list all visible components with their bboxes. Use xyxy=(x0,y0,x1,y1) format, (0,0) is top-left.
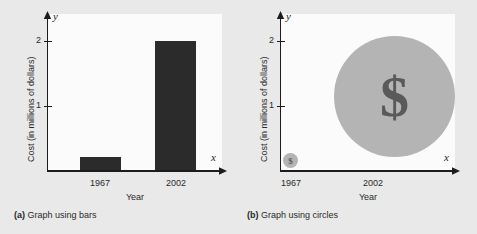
panel-graph-using-bars: Cost (in millions of dollars) y x 2 1 19… xyxy=(0,0,238,234)
x-axis-title-a: Year xyxy=(95,192,175,202)
y-axis-variable-a: y xyxy=(53,10,58,22)
y-tick-2-b xyxy=(277,41,285,42)
x-category-label-1967-b: 1967 xyxy=(261,178,321,188)
y-tick-label-1-b: 1 xyxy=(260,101,274,110)
circle-marker-1967: $ xyxy=(283,153,298,168)
y-tick-label-1-a: 1 xyxy=(27,101,41,110)
x-category-label-2002-a: 2002 xyxy=(146,178,206,188)
y-axis-arrowhead-a xyxy=(43,11,53,21)
figure-container: Cost (in millions of dollars) y x 2 1 19… xyxy=(0,0,477,234)
x-axis-arrowhead-b xyxy=(450,166,460,176)
bar-1967 xyxy=(80,157,121,170)
x-axis-variable-b: x xyxy=(444,151,449,163)
circle-marker-2002: $ xyxy=(334,36,455,157)
y-tick-1-b xyxy=(277,106,285,107)
x-category-label-1967-a: 1967 xyxy=(70,178,130,188)
caption-b-text: Graph using circles xyxy=(261,210,338,220)
panel-graph-using-circles: $ $ Cost (in millions of dollars) y x 2 … xyxy=(239,0,477,234)
y-tick-label-2-b: 2 xyxy=(260,36,274,45)
caption-b: (b) Graph using circles xyxy=(247,210,338,221)
x-category-label-2002-b: 2002 xyxy=(343,178,403,188)
caption-a-text: Graph using bars xyxy=(28,210,97,220)
y-axis-arrowhead-b xyxy=(276,11,286,21)
plot-area-b: $ xyxy=(281,14,455,171)
y-axis-variable-b: y xyxy=(286,10,291,22)
caption-b-label: (b) xyxy=(247,210,259,220)
y-tick-label-2-a: 2 xyxy=(27,36,41,45)
x-axis-line-a xyxy=(47,170,219,172)
bar-2002 xyxy=(155,41,196,170)
x-axis-line-b xyxy=(280,170,452,172)
x-axis-arrowhead-a xyxy=(217,166,227,176)
x-axis-title-b: Year xyxy=(328,192,408,202)
y-tick-1-a xyxy=(44,106,52,107)
caption-a: (a) Graph using bars xyxy=(14,210,97,221)
dollar-symbol-small: $ xyxy=(288,156,293,166)
x-axis-variable-a: x xyxy=(211,151,216,163)
caption-a-label: (a) xyxy=(14,210,25,220)
y-tick-2-a xyxy=(44,41,52,42)
dollar-symbol-large: $ xyxy=(380,63,409,130)
